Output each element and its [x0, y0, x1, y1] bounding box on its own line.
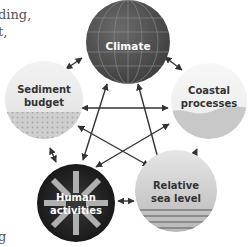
sediment-texture	[0, 112, 90, 152]
coastal-label-line1: Coastal	[188, 85, 230, 96]
arrow-climate-sediment	[66, 58, 82, 69]
arrow-sediment-sea	[78, 126, 149, 166]
arrow-climate-coastal	[165, 57, 182, 70]
coastal-system-diagram: Climate Sediment budget Coastal processe…	[0, 0, 249, 247]
node-human-activities: Human activities	[37, 164, 115, 242]
node-climate: Climate	[86, 0, 170, 84]
climate-label: Climate	[105, 40, 150, 52]
arrow-climate-human	[83, 84, 107, 160]
sea-label-line1: Relative	[153, 180, 199, 191]
sediment-label-line2: budget	[24, 97, 64, 108]
arrow-climate-sea	[138, 84, 159, 162]
coastal-label-line2: processes	[181, 98, 237, 109]
sediment-label-line1: Sediment	[17, 84, 71, 95]
arrow-sediment-human	[50, 148, 56, 162]
human-label-line2: activities	[50, 205, 102, 216]
node-coastal-processes: Coastal processes	[165, 63, 249, 145]
node-sediment-budget: Sediment budget	[0, 61, 90, 152]
human-label-line1: Human	[56, 192, 96, 203]
sea-label-line2: sea level	[151, 193, 201, 204]
